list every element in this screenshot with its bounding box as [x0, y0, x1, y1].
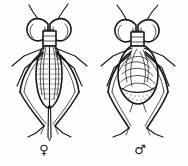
male-abdomen — [118, 46, 158, 104]
insect-illustration-svg: ♀ — [0, 0, 188, 166]
male-thorax — [131, 32, 144, 46]
venus-symbol: ♀ — [39, 142, 49, 157]
mars-symbol: ♂ — [134, 142, 146, 157]
insect-figure-panel: ♀ — [0, 0, 188, 166]
female-thorax — [43, 31, 56, 46]
